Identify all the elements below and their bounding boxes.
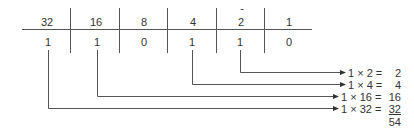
connector-16 [98,50,334,97]
connector-32 [49,50,334,109]
bit-4: 1 [177,36,207,48]
product-expr-2: 1 × 2 = [348,67,382,79]
arrow-head-icon [340,82,346,87]
sum-total: 54 [381,116,401,128]
product-expr-4: 1 × 4 = [348,79,382,91]
place-value-8: 8 [129,16,159,28]
product-result-32: 32 [381,103,401,115]
arrow-head-icon [333,106,339,111]
product-result-2: 2 [381,67,401,79]
arrow-head-icon [340,70,346,75]
connector-2 [241,50,341,73]
bit-8: 0 [129,36,159,48]
place-value-2: 2 [226,16,256,28]
bit-16: 1 [82,36,112,48]
place-value-32: 32 [32,16,62,28]
product-expr-32: 1 × 32 = [341,103,381,115]
place-value-4: 4 [178,16,208,28]
bit-32: 1 [33,36,63,48]
product-expr-16: 1 × 16 = [341,91,381,103]
place-value-16: 16 [81,16,111,28]
bit-2: 1 [225,36,255,48]
bit-1: 0 [274,36,304,48]
marker: - [227,2,257,14]
connector-4 [193,50,341,85]
product-result-4: 4 [381,79,401,91]
product-result-16: 16 [381,91,401,103]
arrow-head-icon [333,94,339,99]
place-value-1: 1 [274,16,304,28]
